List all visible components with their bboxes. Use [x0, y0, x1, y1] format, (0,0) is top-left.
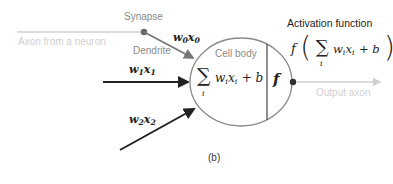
figure-caption: (b)	[208, 153, 220, 163]
cell-body-sum-index: i	[202, 90, 205, 98]
activation-symbol: f	[273, 72, 279, 87]
input-w1-label: w1x1	[129, 64, 156, 77]
cell-body-formula: ∑ wixi + b	[197, 66, 263, 86]
activation-function-label: Activation function	[287, 18, 372, 29]
synapse-label: Synapse	[124, 12, 163, 22]
input-w2-label: w2x2	[129, 114, 156, 127]
output-dot	[290, 79, 296, 85]
activation-sum-index: i	[320, 60, 323, 68]
dendrite-label: Dendrite	[133, 46, 171, 56]
sum-symbol: ∑	[197, 64, 211, 86]
input-w0-label: w0x0	[173, 32, 200, 45]
output-axon-label: Output axon	[316, 88, 370, 98]
axon-from-neuron-label: Axon from a neuron	[18, 37, 106, 47]
cell-body-label: Cell body	[215, 49, 257, 59]
activation-formula: f ( ∑ wixi + b )	[291, 34, 393, 62]
